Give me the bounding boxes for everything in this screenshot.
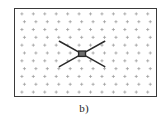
- plot-frame: [14, 8, 157, 97]
- defect-hub: [79, 51, 86, 56]
- figure-container: b): [0, 0, 168, 124]
- defect-x-marker: [15, 9, 156, 96]
- figure-caption: b): [0, 102, 168, 114]
